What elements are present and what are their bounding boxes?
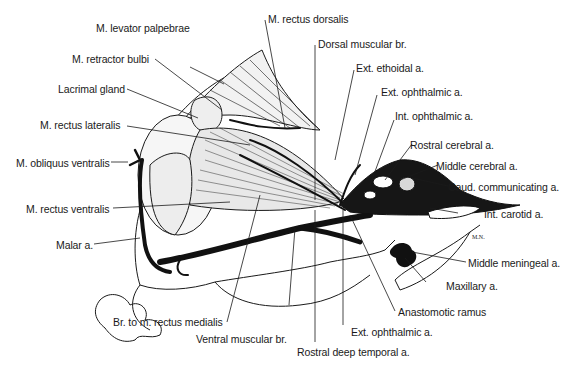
label-middle-cerebral-a: Middle cerebral a. — [436, 160, 518, 172]
maxillary-artery-stump — [390, 243, 416, 267]
label-maxillary-artery: Maxillary a. — [446, 280, 498, 292]
label-anastomotic-ramus: Anastomotic ramus — [398, 306, 486, 318]
label-ventral-muscular-br: Ventral muscular br. — [196, 333, 287, 345]
anatomy-diagram: M. levator palpebrae M. retractor bulbi … — [0, 0, 571, 366]
label-malar-artery: Malar a. — [56, 239, 93, 251]
label-int-ophthalmic-a: Int. ophthalmic a. — [395, 110, 473, 122]
label-rectus-dorsalis: M. rectus dorsalis — [268, 13, 348, 25]
label-caud-communicating-a: Caud. communicating a. — [448, 181, 559, 193]
artist-signature: M.N. — [472, 234, 485, 240]
label-retractor-bulbi: M. retractor bulbi — [72, 53, 149, 65]
label-lacrimal-gland: Lacrimal gland — [58, 83, 125, 95]
label-ext-ethoidal-a: Ext. ethoidal a. — [356, 62, 424, 74]
label-dorsal-muscular-br: Dorsal muscular br. — [318, 38, 407, 50]
label-br-rectus-medialis: Br. to m. rectus medialis — [113, 316, 223, 328]
label-rectus-lateralis: M. rectus lateralis — [40, 119, 120, 131]
label-levator-palpebrae: M. levator palpebrae — [96, 22, 190, 34]
lacrimal-gland — [191, 97, 222, 132]
label-ext-ophthalmic-a-bottom: Ext. ophthalmic a. — [351, 326, 433, 338]
label-rostral-cerebral-a: Rostral cerebral a. — [410, 139, 494, 151]
label-ext-ophthalmic-a-top: Ext. ophthalmic a. — [381, 86, 463, 98]
label-rectus-ventralis: M. rectus ventralis — [26, 203, 109, 215]
label-middle-meningeal-a: Middle meningeal a. — [468, 257, 560, 269]
label-rostral-deep-temporal-a: Rostral deep temporal a. — [297, 346, 410, 358]
label-int-carotid-a: Int. carotid a. — [484, 208, 543, 220]
label-obliquus-ventralis: M. obliquus ventralis — [16, 157, 110, 169]
